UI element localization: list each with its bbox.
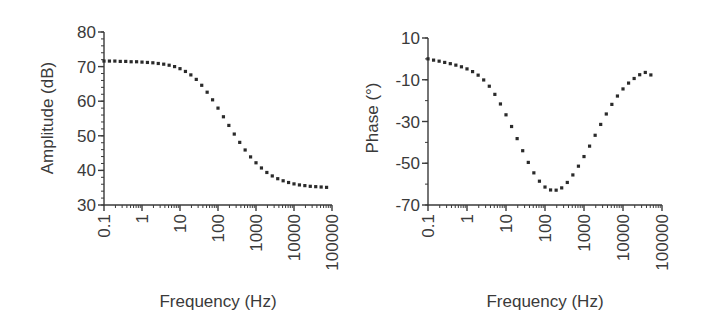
y-tick-label: 70 (77, 58, 96, 77)
data-point (276, 177, 279, 180)
data-point (238, 141, 241, 144)
data-point (303, 184, 306, 187)
data-point (566, 181, 569, 184)
data-point (227, 124, 230, 127)
data-point (621, 87, 624, 90)
x-tick-label: 1 (133, 214, 152, 223)
data-point (222, 115, 225, 118)
data-point (610, 103, 613, 106)
data-point (471, 70, 474, 73)
x-tick-label: 100000 (323, 214, 342, 271)
x-tick-label: 10000 (285, 214, 304, 261)
data-point (206, 91, 209, 94)
x-tick-label: 10000 (614, 214, 633, 261)
data-point (488, 85, 491, 88)
data-point (543, 185, 546, 188)
phase-chart: -70-50-30-1010 0.1110100100010000100000 … (363, 29, 672, 311)
data-point (493, 93, 496, 96)
data-point (516, 137, 519, 140)
data-point (135, 60, 138, 63)
data-point (325, 186, 328, 189)
data-point (309, 185, 312, 188)
data-point (119, 60, 122, 63)
data-point (271, 174, 274, 177)
data-point (233, 132, 236, 135)
data-point (605, 112, 608, 115)
data-point (102, 59, 105, 62)
data-point (482, 78, 485, 81)
data-point (146, 61, 149, 64)
data-point (499, 102, 502, 105)
data-point (178, 67, 181, 70)
x-tick-label: 100 (209, 214, 228, 242)
amplitude-y-axis: 304050607080 (77, 23, 104, 215)
data-point (477, 74, 480, 77)
data-point (504, 113, 507, 116)
data-point (211, 98, 214, 101)
y-tick-label: 10 (401, 29, 420, 48)
x-tick-label: 0.1 (419, 214, 438, 238)
data-point (538, 180, 541, 183)
data-point (649, 73, 652, 76)
data-point (616, 94, 619, 97)
data-point (588, 145, 591, 148)
data-point (195, 78, 198, 81)
data-point (449, 62, 452, 65)
data-point (168, 64, 171, 67)
phase-data-points (426, 57, 652, 192)
amplitude-x-axis: 0.1110100100010000100000 (95, 205, 342, 271)
x-tick-label: 1000 (575, 214, 594, 252)
data-point (216, 107, 219, 110)
y-tick-label: -70 (395, 196, 420, 215)
y-tick-label: -30 (395, 113, 420, 132)
phase-x-axis: 0.1110100100010000100000 (419, 205, 672, 271)
amplitude-chart: 304050607080 0.1110100100010000100000 Fr… (38, 23, 342, 311)
phase-y-axis: -70-50-30-1010 (395, 29, 428, 215)
y-tick-label: -50 (395, 154, 420, 173)
data-point (298, 183, 301, 186)
y-tick-label: 60 (77, 92, 96, 111)
phase-y-axis-label: Phase (°) (363, 82, 382, 153)
data-point (454, 64, 457, 67)
data-point (460, 65, 463, 68)
data-point (549, 188, 552, 191)
data-point (510, 125, 513, 128)
x-tick-label: 100 (536, 214, 555, 242)
x-tick-label: 1 (458, 214, 477, 223)
data-point (577, 165, 580, 168)
y-tick-label: 40 (77, 161, 96, 180)
data-point (627, 81, 630, 84)
y-tick-label: 80 (77, 23, 96, 42)
data-point (244, 148, 247, 151)
data-point (582, 155, 585, 158)
data-point (555, 189, 558, 192)
x-tick-label: 0.1 (95, 214, 114, 238)
amplitude-data-points (102, 59, 328, 188)
data-point (189, 73, 192, 76)
data-point (443, 61, 446, 64)
data-point (124, 60, 127, 63)
data-point (249, 155, 252, 158)
data-point (151, 61, 154, 64)
data-point (571, 173, 574, 176)
data-point (184, 70, 187, 73)
data-point (157, 62, 160, 65)
x-tick-label: 10 (171, 214, 190, 233)
data-point (162, 63, 165, 66)
data-point (314, 185, 317, 188)
data-point (633, 77, 636, 80)
y-tick-label: 30 (77, 196, 96, 215)
bode-plot-figure: 304050607080 0.1110100100010000100000 Fr… (0, 0, 702, 328)
data-point (432, 59, 435, 62)
data-point (320, 185, 323, 188)
x-tick-label: 1000 (247, 214, 266, 252)
data-point (438, 60, 441, 63)
data-point (200, 84, 203, 87)
amplitude-y-axis-label: Amplitude (dB) (38, 62, 57, 174)
data-point (521, 149, 524, 152)
x-tick-label: 100000 (653, 214, 672, 271)
data-point (594, 134, 597, 137)
y-tick-label: 50 (77, 127, 96, 146)
data-point (282, 179, 285, 182)
data-point (108, 59, 111, 62)
